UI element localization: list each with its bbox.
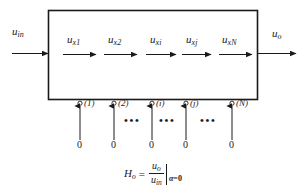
stage-label-5: uxN	[222, 34, 237, 47]
tap-5	[230, 101, 234, 140]
formula-equals: =	[139, 168, 145, 180]
tap-1	[78, 101, 82, 140]
tap-number-5: (N)	[236, 99, 248, 108]
formula-denominator: uin	[149, 174, 164, 187]
tap-number-4: (j)	[190, 99, 199, 108]
ellipsis-3: •••	[200, 115, 216, 126]
transfer-function-formula: Ho=uouinα=0	[0, 160, 306, 188]
ellipsis-1: •••	[124, 115, 140, 126]
tap-source-2: 0	[111, 140, 116, 150]
ellipsis-2: •••	[159, 115, 175, 126]
stage-label-4: uxj	[186, 34, 197, 47]
formula-numerator: uo	[149, 160, 164, 174]
stage-label-2: ux2	[108, 34, 121, 47]
output-label: uo	[272, 28, 282, 41]
tap-number-2: (2)	[118, 99, 129, 108]
tap-number-1: (1)	[84, 99, 95, 108]
tap-3	[150, 101, 154, 140]
stage-label-1: ux1	[67, 34, 80, 47]
tap-4	[184, 101, 188, 140]
diagram-root: uin uo ux1 ux2 uxi uxj uxN (1) (2) (i) (…	[0, 0, 306, 193]
stage-label-3: uxi	[150, 34, 161, 47]
formula-condition: α=0	[169, 174, 182, 183]
tap-number-3: (i)	[156, 99, 165, 108]
formula-fraction: uouin	[149, 160, 164, 188]
tap-source-5: 0	[229, 140, 234, 150]
tap-source-4: 0	[183, 140, 188, 150]
tap-2	[112, 101, 116, 140]
tap-source-1: 0	[77, 140, 82, 150]
formula-lhs: Ho	[124, 167, 136, 181]
input-label: uin	[12, 26, 24, 39]
evaluation-bar	[166, 164, 167, 185]
tap-source-3: 0	[149, 140, 154, 150]
